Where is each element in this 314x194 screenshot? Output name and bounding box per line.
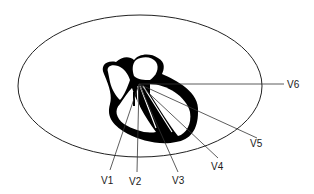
precordial-leads-diagram: V1 V2 V3 V4 V5 V6 bbox=[0, 0, 314, 194]
lead-label-v4: V4 bbox=[211, 161, 224, 172]
lead-label-v6: V6 bbox=[287, 79, 300, 90]
lead-label-v3: V3 bbox=[172, 175, 185, 186]
lead-label-v5: V5 bbox=[250, 138, 263, 149]
lead-label-v1: V1 bbox=[101, 175, 114, 186]
lead-label-v2: V2 bbox=[129, 176, 142, 187]
heart-illustration bbox=[103, 54, 198, 143]
